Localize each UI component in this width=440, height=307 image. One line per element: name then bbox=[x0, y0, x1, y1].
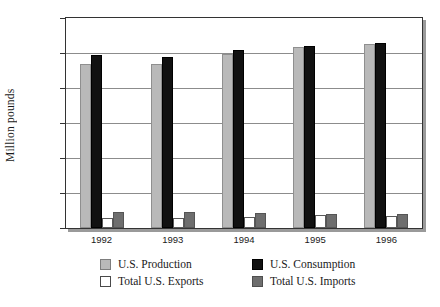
y-axis-title: Million pounds bbox=[2, 50, 18, 200]
bar-exports bbox=[244, 217, 255, 228]
chart-legend: U.S. ProductionU.S. ConsumptionTotal U.S… bbox=[100, 258, 420, 298]
bar-production bbox=[151, 64, 162, 228]
legend-item-consumption[interactable]: U.S. Consumption bbox=[252, 258, 355, 270]
legend-swatch-imports-icon bbox=[252, 276, 263, 287]
plot-area bbox=[65, 17, 423, 229]
legend-item-imports[interactable]: Total U.S. Imports bbox=[252, 275, 355, 287]
legend-label: U.S. Production bbox=[118, 258, 192, 270]
legend-label: Total U.S. Exports bbox=[118, 275, 203, 287]
bar-exports bbox=[173, 218, 184, 228]
bar-group bbox=[293, 18, 337, 228]
bar-exports bbox=[102, 218, 113, 228]
bar-chart: Million pounds 05,00010,00015,00020,0002… bbox=[0, 0, 440, 307]
bar-consumption bbox=[375, 43, 386, 229]
bar-imports bbox=[113, 212, 124, 228]
bar-group bbox=[151, 18, 195, 228]
bar-consumption bbox=[91, 55, 102, 228]
x-axis-tick-label: 1995 bbox=[280, 234, 351, 245]
bar-imports bbox=[255, 213, 266, 228]
bar-production bbox=[364, 44, 375, 228]
bar-group bbox=[364, 18, 408, 228]
bar-consumption bbox=[162, 57, 173, 228]
bar-imports bbox=[397, 214, 408, 228]
x-axis-tick-label: 1993 bbox=[137, 234, 208, 245]
x-axis-tick-label: 1996 bbox=[351, 234, 422, 245]
bar-exports bbox=[315, 215, 326, 228]
bar-imports bbox=[326, 214, 337, 228]
bar-consumption bbox=[304, 46, 315, 228]
legend-item-exports[interactable]: Total U.S. Exports bbox=[100, 275, 203, 287]
bar-exports bbox=[386, 216, 397, 228]
bar-production bbox=[293, 47, 304, 228]
bar-production bbox=[80, 64, 91, 228]
legend-swatch-exports-icon bbox=[100, 276, 111, 287]
legend-swatch-production-icon bbox=[100, 259, 111, 270]
x-axis-tick-label: 1992 bbox=[66, 234, 137, 245]
legend-label: U.S. Consumption bbox=[270, 258, 355, 270]
bar-consumption bbox=[233, 50, 244, 229]
bar-imports bbox=[184, 212, 195, 228]
legend-item-production[interactable]: U.S. Production bbox=[100, 258, 192, 270]
x-axis-tick-label: 1994 bbox=[208, 234, 279, 245]
bar-group bbox=[80, 18, 124, 228]
legend-swatch-consumption-icon bbox=[252, 259, 263, 270]
bar-group bbox=[222, 18, 266, 228]
bar-production bbox=[222, 54, 233, 228]
legend-label: Total U.S. Imports bbox=[270, 275, 355, 287]
